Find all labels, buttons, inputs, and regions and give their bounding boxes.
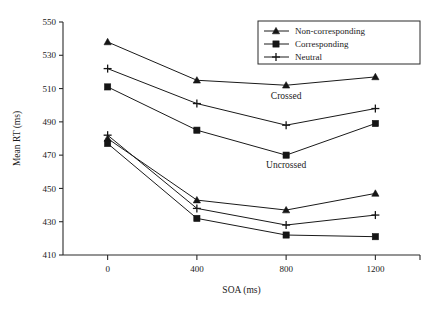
data-point-square [372, 120, 378, 126]
annotation-uncrossed: Uncrossed [266, 160, 306, 170]
series-line-crossed-square [108, 87, 376, 155]
x-tick-label: 1200 [366, 264, 385, 274]
y-tick-label: 550 [43, 17, 57, 27]
series-line-uncrossed-square [108, 143, 376, 236]
y-tick-label: 510 [43, 84, 57, 94]
data-point-square [194, 127, 200, 133]
y-tick-label: 490 [43, 117, 57, 127]
x-tick-label: 800 [279, 264, 293, 274]
data-point-triangle [193, 77, 200, 83]
y-axis-title: Mean RT (ms) [12, 111, 23, 166]
data-point-square [105, 84, 111, 90]
data-point-square [194, 215, 200, 221]
x-axis-title: SOA (ms) [222, 285, 260, 296]
data-point-triangle [104, 38, 111, 44]
y-tick-label: 430 [43, 217, 57, 227]
y-tick-label: 450 [43, 184, 57, 194]
y-tick-label: 410 [43, 250, 57, 260]
data-point-triangle [193, 196, 200, 202]
data-point-square [283, 152, 289, 158]
series-line-uncrossed-plus [108, 135, 376, 225]
data-point-triangle [372, 190, 379, 196]
chart-figure: 41043045047049051053055004008001200SOA (… [0, 0, 443, 310]
legend-label: Neutral [295, 52, 322, 62]
data-point-square [372, 234, 378, 240]
annotation-crossed: Crossed [271, 91, 302, 101]
data-point-triangle [372, 73, 379, 79]
y-tick-label: 530 [43, 50, 57, 60]
x-tick-label: 0 [105, 264, 110, 274]
legend-label: Non-corresponding [295, 26, 365, 36]
series-line-uncrossed-triangle [108, 139, 376, 211]
data-point-square [105, 140, 111, 146]
series-line-crossed-plus [108, 69, 376, 126]
legend-label: Corresponding [295, 39, 349, 49]
data-point-square [283, 232, 289, 238]
line-chart: 41043045047049051053055004008001200SOA (… [0, 0, 443, 310]
y-tick-label: 470 [43, 150, 57, 160]
legend-marker-square [273, 41, 279, 47]
x-tick-label: 400 [190, 264, 204, 274]
